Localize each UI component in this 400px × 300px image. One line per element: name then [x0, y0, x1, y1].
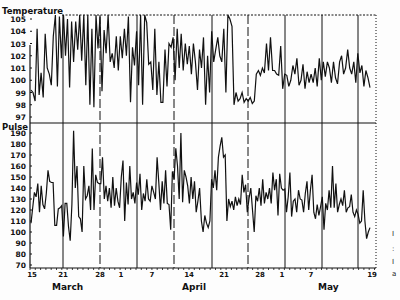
- svg-text:160: 160: [10, 162, 26, 171]
- svg-text:130: 130: [10, 195, 26, 204]
- temperature-y-axis: 979899100101102103104105: [10, 15, 32, 122]
- svg-text:170: 170: [10, 151, 26, 160]
- svg-text:80: 80: [16, 250, 26, 259]
- svg-text:7: 7: [309, 271, 314, 279]
- svg-text:104: 104: [10, 27, 26, 36]
- svg-text:150: 150: [10, 173, 26, 182]
- svg-text:1: 1: [119, 271, 124, 279]
- date-x-axis: 152128171421281719: [27, 268, 377, 279]
- svg-text:120: 120: [10, 206, 26, 215]
- svg-text:14: 14: [184, 271, 194, 279]
- svg-text:100: 100: [10, 228, 26, 237]
- margin-text-fragment: I: [392, 230, 394, 238]
- margin-text-fragment: I: [392, 258, 394, 266]
- svg-text:99: 99: [16, 89, 26, 98]
- svg-text:7: 7: [150, 271, 155, 279]
- svg-text:19: 19: [367, 271, 377, 279]
- svg-text:70: 70: [16, 261, 26, 270]
- pulse-y-axis: 708090100110120130140150160170180190: [10, 129, 32, 270]
- svg-text:28: 28: [95, 271, 105, 279]
- svg-text:21: 21: [219, 271, 229, 279]
- svg-text:98: 98: [16, 101, 26, 110]
- svg-text:103: 103: [10, 40, 26, 49]
- margin-text-fragment: :: [392, 245, 394, 253]
- svg-text:21: 21: [58, 271, 68, 279]
- svg-text:101: 101: [10, 64, 26, 73]
- month-label-april: April: [182, 282, 206, 292]
- svg-text:105: 105: [10, 15, 26, 24]
- svg-text:15: 15: [27, 271, 37, 279]
- month-label-may: May: [318, 282, 339, 292]
- svg-text:97: 97: [16, 113, 26, 122]
- temperature-pulse-chart: 979899100101102103104105 708090100110120…: [0, 0, 400, 300]
- svg-text:1: 1: [280, 271, 285, 279]
- temperature-series-line: [31, 15, 370, 107]
- pulse-title: Pulse: [2, 122, 28, 132]
- svg-text:100: 100: [10, 76, 26, 85]
- temperature-title: Temperature: [2, 6, 63, 16]
- svg-text:140: 140: [10, 184, 26, 193]
- svg-text:102: 102: [10, 52, 26, 61]
- svg-text:110: 110: [10, 217, 26, 226]
- month-label-march: March: [52, 282, 83, 292]
- svg-text:180: 180: [10, 140, 26, 149]
- svg-text:90: 90: [16, 239, 26, 248]
- svg-text:28: 28: [255, 271, 265, 279]
- margin-text-fragment: a: [392, 270, 396, 278]
- pulse-series-line: [31, 131, 370, 241]
